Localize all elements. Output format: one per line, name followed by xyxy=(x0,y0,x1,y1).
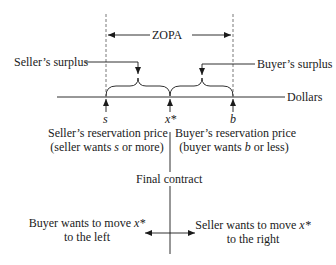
buyers-surplus-leader xyxy=(202,64,255,75)
b-point-label: b xyxy=(230,112,236,126)
x-star-point-label: x* xyxy=(165,112,176,126)
x-star-var: x* xyxy=(134,216,145,230)
final-contract-label: Final contract xyxy=(136,172,202,186)
zopa-label: ZOPA xyxy=(152,28,182,42)
buyers-reservation-label: Buyer’s reservation price (buyer wants b… xyxy=(175,126,293,154)
sellers-reservation-line1: Seller’s reservation price xyxy=(48,126,166,140)
sellers-reservation-label: Seller’s reservation price (seller wants… xyxy=(48,126,166,154)
sellers-surplus-brace xyxy=(106,78,170,96)
seller-move-label: Seller wants to move x* to the right xyxy=(195,218,311,246)
s-point-label: s xyxy=(103,112,108,126)
buyers-reservation-line2: (buyer wants b or less) xyxy=(175,140,293,154)
seller-move-line2: to the right xyxy=(195,232,311,246)
text: or less) xyxy=(251,140,289,154)
sellers-surplus-label: Seller’s surplus xyxy=(14,55,88,69)
text: Buyer wants to move xyxy=(29,216,134,230)
text: (buyer wants xyxy=(179,140,244,154)
sellers-surplus-leader xyxy=(85,62,138,74)
buyers-reservation-line1: Buyer’s reservation price xyxy=(175,126,293,140)
buyer-move-label: Buyer wants to move x* to the left xyxy=(28,216,146,244)
buyer-move-line2: to the left xyxy=(28,230,146,244)
text: Seller wants to move xyxy=(195,218,299,232)
text: or more) xyxy=(119,140,164,154)
x-star-var: x* xyxy=(299,218,310,232)
buyers-surplus-label: Buyer’s surplus xyxy=(257,57,332,71)
seller-move-line1: Seller wants to move x* xyxy=(195,218,311,232)
dollars-axis-label: Dollars xyxy=(287,90,322,104)
zopa-diagram: ZOPA Seller’s surplus Buyer’s surplus Do… xyxy=(0,0,336,265)
buyers-surplus-brace xyxy=(170,78,233,96)
buyer-move-line1: Buyer wants to move x* xyxy=(28,216,146,230)
text: (seller wants xyxy=(50,140,114,154)
sellers-reservation-line2: (seller wants s or more) xyxy=(48,140,166,154)
